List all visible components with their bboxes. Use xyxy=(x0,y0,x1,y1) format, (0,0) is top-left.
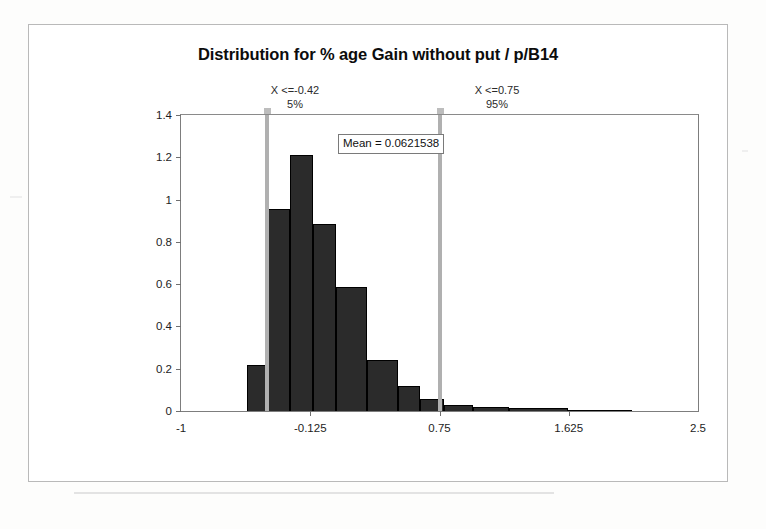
scan-artifact-bottom xyxy=(74,492,554,494)
plot-inner: 00.20.40.60.811.21.4-1-0.1250.751.6252.5 xyxy=(181,115,698,411)
x-axis-tick-mark xyxy=(310,411,311,416)
percentile-delimiter-handle[interactable] xyxy=(437,108,444,114)
chart-title: Distribution for % age Gain without put … xyxy=(29,45,727,64)
histogram-bar xyxy=(473,407,508,411)
percentile-delimiter-handle[interactable] xyxy=(264,108,271,114)
scan-artifact-right xyxy=(742,150,748,152)
histogram-bar xyxy=(290,155,313,411)
percentile-label-95: X <=0.75 xyxy=(437,83,557,97)
plot-area: 00.20.40.60.811.21.4-1-0.1250.751.6252.5 xyxy=(180,114,699,412)
x-axis-tick-label: -1 xyxy=(176,411,186,434)
x-axis-tick-mark xyxy=(440,411,441,416)
histogram-bar xyxy=(336,287,367,411)
percentile-label-5: X <=-0.42 xyxy=(235,83,355,97)
histogram-bar xyxy=(398,386,420,411)
percentile-annotation-95: X <=0.75 95% xyxy=(437,83,557,111)
percentile-percent-5: 5% xyxy=(235,97,355,111)
y-axis-tick-label: 1.2 xyxy=(126,151,181,163)
scan-artifact-left xyxy=(10,196,22,198)
y-axis-tick-label: 1 xyxy=(126,194,181,206)
y-axis-tick-label: 1.4 xyxy=(126,109,181,121)
y-axis-tick-mark xyxy=(176,157,181,158)
y-axis-tick-label: 0.8 xyxy=(126,236,181,248)
percentile-delimiter-line[interactable] xyxy=(438,115,442,411)
y-axis-tick-mark xyxy=(176,200,181,201)
histogram-bar xyxy=(444,405,474,411)
y-axis-tick-mark xyxy=(176,326,181,327)
histogram-bar xyxy=(568,410,632,412)
y-axis-tick-label: 0.2 xyxy=(126,363,181,375)
histogram-bar xyxy=(509,408,568,411)
percentile-percent-95: 95% xyxy=(437,97,557,111)
x-axis-tick-mark xyxy=(569,411,570,416)
y-axis-tick-mark xyxy=(176,284,181,285)
y-axis-tick-label: 0.4 xyxy=(126,320,181,332)
x-axis-tick-label: 2.5 xyxy=(690,411,706,434)
scanned-page: Distribution for % age Gain without put … xyxy=(0,0,766,529)
y-axis-tick-mark xyxy=(176,369,181,370)
y-axis-tick-label: 0 xyxy=(126,405,181,417)
histogram-bar xyxy=(367,360,398,411)
percentile-delimiter-line[interactable] xyxy=(265,115,269,411)
y-axis-tick-mark xyxy=(176,242,181,243)
mean-callout: Mean = 0.0621538 xyxy=(338,134,444,154)
histogram-bar xyxy=(313,224,336,411)
y-axis-tick-label: 0.6 xyxy=(126,278,181,290)
percentile-annotation-5: X <=-0.42 5% xyxy=(235,83,355,111)
y-axis-tick-mark xyxy=(176,115,181,116)
histogram-bar xyxy=(267,209,290,411)
